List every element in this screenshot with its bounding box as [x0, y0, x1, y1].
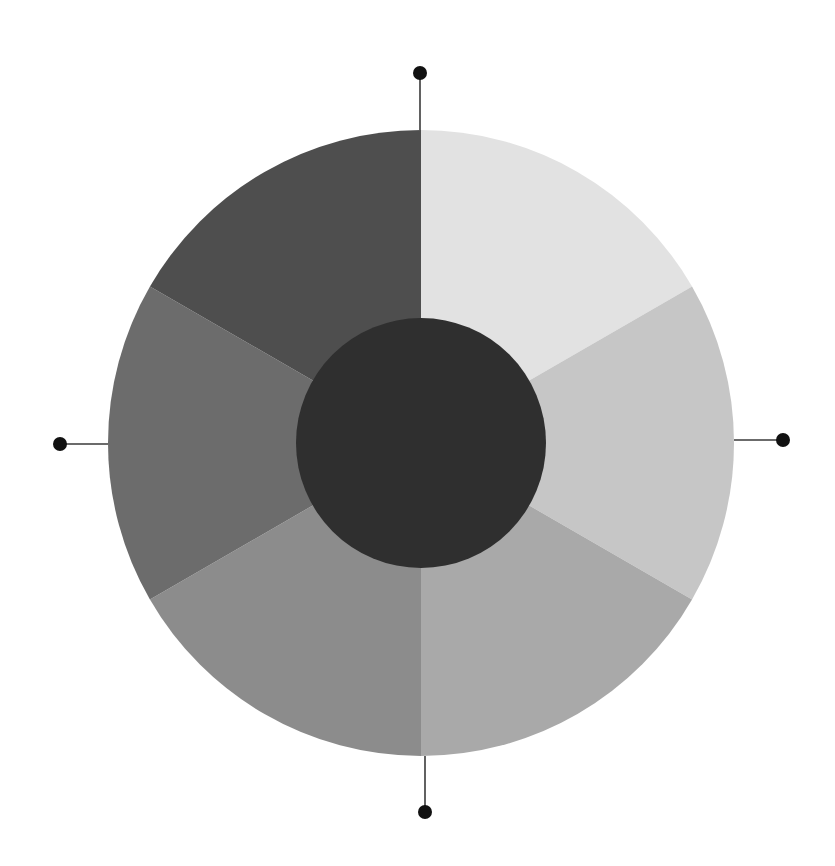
connector-dot-icon — [776, 433, 790, 447]
connector-dot-icon — [418, 805, 432, 819]
center-disk — [296, 318, 546, 568]
connector-bottom — [418, 756, 432, 819]
connector-dot-icon — [53, 437, 67, 451]
connector-top — [413, 66, 427, 130]
connector-right — [734, 433, 790, 447]
connector-dot-icon — [413, 66, 427, 80]
connector-left — [53, 437, 108, 451]
tonal-color-wheel — [0, 0, 835, 866]
